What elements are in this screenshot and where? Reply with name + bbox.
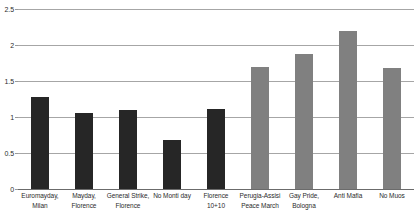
plot-area <box>18 9 414 189</box>
bar <box>75 113 93 189</box>
bar <box>119 110 137 189</box>
y-axis-tick-label: 1.5 <box>0 78 14 85</box>
bar <box>207 109 225 189</box>
bar <box>295 54 313 189</box>
y-axis-tick-label: 0.5 <box>0 150 14 157</box>
gridline <box>18 9 414 10</box>
y-axis-tick-label: 2.5 <box>0 6 14 13</box>
bar <box>31 97 49 189</box>
x-axis-line <box>18 189 414 190</box>
y-axis-tick-label: 1 <box>0 114 14 121</box>
bar <box>163 140 181 189</box>
x-axis-category-label: No Muos <box>364 191 414 201</box>
bar <box>383 68 401 189</box>
x-axis-category-labels: Euromayday, MilanMayday, FlorenceGeneral… <box>18 191 414 223</box>
bar <box>339 31 357 189</box>
bar-chart: 2.521.510.50 Euromayday, MilanMayday, Fl… <box>0 0 414 223</box>
y-axis-tick-label: 2 <box>0 42 14 49</box>
bar <box>251 67 269 189</box>
